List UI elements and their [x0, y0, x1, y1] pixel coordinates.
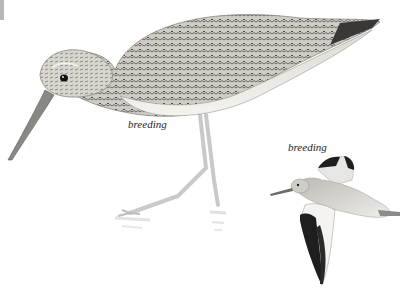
bird-illustration: [0, 0, 406, 289]
caption-flying-breeding: breeding: [288, 141, 327, 153]
flying-willet: [270, 156, 400, 285]
illustration-canvas: breeding breeding: [0, 0, 406, 289]
eye-icon: [60, 75, 68, 82]
caption-standing-breeding: breeding: [128, 118, 167, 130]
